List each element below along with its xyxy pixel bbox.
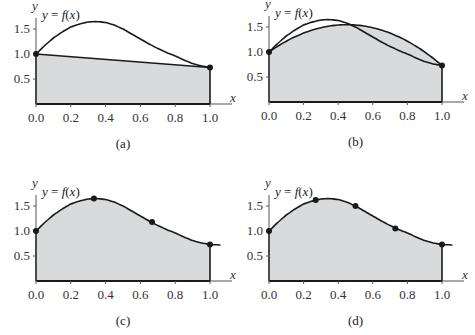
data-point <box>266 228 272 234</box>
panel-caption: (c) <box>116 313 130 328</box>
y-tick-label: 1.5 <box>247 19 263 34</box>
x-tick-label: 0.6 <box>132 287 149 302</box>
data-point <box>439 242 445 248</box>
shaded-area <box>36 199 210 281</box>
x-tick-label: 0.8 <box>399 287 415 302</box>
y-tick-label: 1.0 <box>14 223 30 238</box>
function-label: y = f(x) <box>273 5 313 20</box>
x-tick-label: 0.2 <box>63 287 79 302</box>
x-tick-label: 0.6 <box>365 108 382 123</box>
panel-caption: (a) <box>116 136 130 151</box>
x-axis-label: x <box>229 267 236 282</box>
x-tick-label: 1.0 <box>202 287 218 302</box>
x-axis-label: x <box>229 90 236 105</box>
figure: 0.00.20.40.60.81.00.51.01.5xyy = f(x)(a)… <box>0 0 475 335</box>
panel-caption: (b) <box>348 134 363 149</box>
y-tick-label: 0.5 <box>247 248 263 263</box>
y-tick-label: 1.5 <box>14 198 30 213</box>
x-tick-label: 1.0 <box>434 287 450 302</box>
y-tick-label: 0.5 <box>14 71 30 86</box>
x-tick-label: 1.0 <box>202 110 218 125</box>
x-tick-label: 0.2 <box>295 108 311 123</box>
data-point <box>266 49 272 55</box>
x-tick-label: 0.0 <box>28 110 44 125</box>
function-label: y = f(x) <box>40 184 80 199</box>
function-label: y = f(x) <box>40 7 80 22</box>
data-point <box>313 197 319 203</box>
y-tick-label: 1.0 <box>247 44 263 59</box>
y-axis-label: y <box>263 0 271 11</box>
data-point <box>149 219 155 225</box>
panel-caption: (d) <box>348 313 363 328</box>
y-tick-label: 0.5 <box>247 69 263 84</box>
y-tick-label: 1.0 <box>247 223 263 238</box>
data-point <box>33 51 39 57</box>
x-tick-label: 1.0 <box>434 108 450 123</box>
x-tick-label: 0.0 <box>28 287 44 302</box>
data-point <box>207 65 213 71</box>
data-point <box>33 228 39 234</box>
data-point <box>91 196 97 202</box>
panel-a: 0.00.20.40.60.81.00.51.01.5xyy = f(x)(a) <box>14 0 236 151</box>
panel-c: 0.00.20.40.60.81.00.51.01.5xyy = f(x)(c) <box>14 175 236 328</box>
y-tick-label: 1.5 <box>247 198 263 213</box>
x-tick-label: 0.2 <box>295 287 311 302</box>
x-tick-label: 0.4 <box>97 110 114 125</box>
panel-d: 0.00.20.40.60.81.00.51.01.5xyy = f(x)(d) <box>247 175 468 328</box>
data-point <box>353 203 359 209</box>
y-axis-label: y <box>30 175 38 190</box>
data-point <box>439 63 445 69</box>
x-tick-label: 0.8 <box>399 108 415 123</box>
y-axis-label: y <box>263 175 271 190</box>
x-tick-label: 0.0 <box>261 108 277 123</box>
data-point <box>207 242 213 248</box>
x-tick-label: 0.4 <box>97 287 114 302</box>
shaded-area <box>269 199 442 281</box>
x-tick-label: 0.8 <box>167 287 183 302</box>
y-axis-label: y <box>30 0 38 13</box>
x-tick-label: 0.6 <box>132 110 149 125</box>
y-tick-label: 0.5 <box>14 248 30 263</box>
x-tick-label: 0.4 <box>330 287 347 302</box>
x-tick-label: 0.8 <box>167 110 183 125</box>
x-axis-label: x <box>461 88 468 103</box>
x-tick-label: 0.0 <box>261 287 277 302</box>
x-tick-label: 0.4 <box>330 108 347 123</box>
x-axis-label: x <box>461 267 468 282</box>
panel-b: 0.00.20.40.60.81.00.51.01.5xyy = f(x)(b) <box>247 0 468 149</box>
y-tick-label: 1.0 <box>14 46 30 61</box>
data-point <box>392 226 398 232</box>
y-tick-label: 1.5 <box>14 21 30 36</box>
function-label: y = f(x) <box>273 184 313 199</box>
x-tick-label: 0.2 <box>63 110 79 125</box>
x-tick-label: 0.6 <box>365 287 382 302</box>
